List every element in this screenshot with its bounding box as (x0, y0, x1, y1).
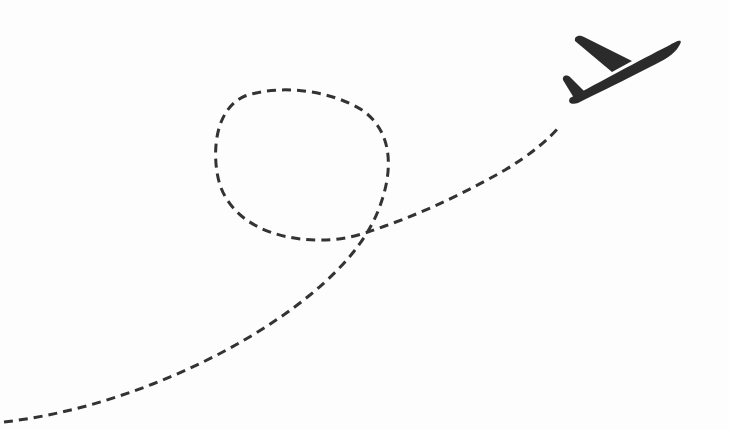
illustration-canvas (0, 0, 729, 430)
flight-illustration (0, 0, 729, 430)
dashed-flight-path (4, 90, 560, 422)
airplane-icon (563, 36, 681, 104)
